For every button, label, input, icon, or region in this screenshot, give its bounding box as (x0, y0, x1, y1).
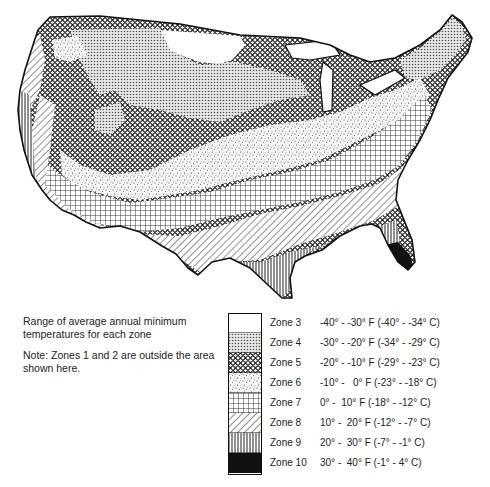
zone-range: 30° - 40° F (-1° - 4° C) (320, 457, 422, 468)
zone-label: Zone 8 (270, 417, 301, 428)
legend-row-zone-10: Zone 10 30° - 40° F (-1° - 4° C) (228, 453, 488, 473)
swatch-stipple-icon (228, 373, 262, 393)
hardiness-zone-map (0, 0, 490, 300)
swatch-solid-icon (228, 453, 262, 473)
legend-row-zone-8: Zone 8 10° - 20° F (-12° - -7° C) (228, 413, 488, 433)
legend-row-zone-5: Zone 5 -20° - -10° F (-29° - -23° C) (228, 353, 488, 373)
zone-range: 0° - 10° F (-18° - -12° C) (320, 397, 430, 408)
zone-label: Zone 5 (270, 357, 301, 368)
legend-row-zone-4: Zone 4 -30° - -20° F (-34° - -29° C) (228, 333, 488, 353)
legend-row-zone-6: Zone 6 -10° - 0° F (-23° - -18° C) (228, 373, 488, 393)
zone-label: Zone 7 (270, 397, 301, 408)
swatch-vertical-lines-icon (228, 433, 262, 453)
zone-range: -40° - -30° F (-40° - -34° C) (320, 317, 440, 328)
swatch-square-grid-icon (228, 393, 262, 413)
legend-row-zone-7: Zone 7 0° - 10° F (-18° - -12° C) (228, 393, 488, 413)
zone-label: Zone 3 (270, 317, 301, 328)
zone-range: 20° - 30° F (-7° - -1° C) (320, 437, 425, 448)
legend-row-zone-3: Zone 3 -40° - -30° F (-40° - -34° C) (228, 313, 488, 333)
swatch-diamond-mesh-icon (228, 353, 262, 373)
swatch-fine-dots-icon (228, 333, 262, 353)
zone-label: Zone 6 (270, 377, 301, 388)
zone-label: Zone 10 (270, 457, 307, 468)
swatch-diagonal-hatch-icon (228, 413, 262, 433)
zone-range: 10° - 20° F (-12° - -7° C) (320, 417, 430, 428)
caption-description: Range of average annual minimum temperat… (23, 315, 223, 341)
zone-range: -30° - -20° F (-34° - -29° C) (320, 337, 440, 348)
legend-row-zone-9: Zone 9 20° - 30° F (-7° - -1° C) (228, 433, 488, 453)
zone-label: Zone 9 (270, 437, 301, 448)
zone-label: Zone 4 (270, 337, 301, 348)
zone-range: -10° - 0° F (-23° - -18° C) (320, 377, 437, 388)
caption-note: Note: Zones 1 and 2 are outside the area… (23, 349, 223, 375)
zone-range: -20° - -10° F (-29° - -23° C) (320, 357, 440, 368)
swatch-blank-icon (228, 313, 262, 333)
map-caption: Range of average annual minimum temperat… (23, 315, 223, 383)
